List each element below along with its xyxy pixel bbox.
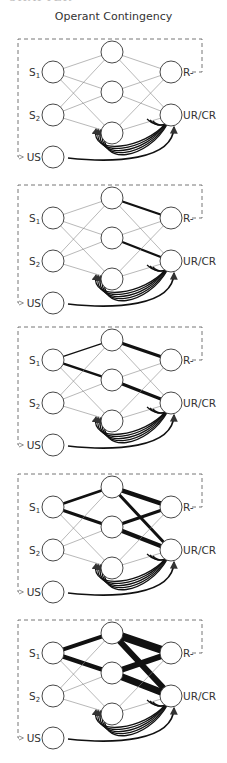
label-s1: S1 <box>29 647 40 661</box>
node-us <box>42 292 64 314</box>
node-h3 <box>101 557 123 579</box>
node-ur <box>160 392 182 414</box>
node-ur <box>160 539 182 561</box>
label-s2: S2 <box>29 109 40 123</box>
connection-s1-h1 <box>63 56 101 69</box>
node-h2 <box>101 81 123 103</box>
node-s2 <box>42 539 64 561</box>
label-r-minus: R- <box>183 212 194 224</box>
panel-3: S1S2USR-UR/CR <box>18 327 216 456</box>
node-s2 <box>42 250 64 272</box>
connection-s1-h1 <box>63 202 101 215</box>
node-r <box>160 642 182 664</box>
node-us <box>42 581 64 603</box>
node-h1 <box>101 622 123 644</box>
connection-s1-h3 <box>61 226 105 271</box>
panel-5: S1S2USR-UR/CR <box>18 620 216 749</box>
panel-4: S1S2USR-UR/CR <box>18 474 216 603</box>
label-s1: S1 <box>29 501 40 515</box>
node-s2 <box>42 104 64 126</box>
node-s1 <box>42 61 64 83</box>
connection-h3-r <box>120 368 164 413</box>
node-h2 <box>101 227 123 249</box>
connection-s1-h2 <box>63 76 101 89</box>
connection-s1-h3 <box>61 80 105 125</box>
node-s1 <box>42 642 64 664</box>
node-s2 <box>42 685 64 707</box>
panel-1-initial: S1S2USR-UR/CR <box>18 39 216 168</box>
connection-h2-r <box>122 364 160 377</box>
node-ur <box>160 104 182 126</box>
node-r <box>160 349 182 371</box>
connection-s1-h1 <box>63 344 101 357</box>
connection-s1-h2 <box>63 657 101 670</box>
node-s1 <box>42 207 64 229</box>
connection-s2-h3 <box>64 699 102 711</box>
connection-s2-h3 <box>64 264 102 276</box>
label-r-minus: R- <box>183 647 194 659</box>
node-ur <box>160 685 182 707</box>
label-r-minus: R- <box>183 501 194 513</box>
node-h3 <box>101 122 123 144</box>
connection-s2-h3 <box>64 118 102 130</box>
node-r <box>160 207 182 229</box>
node-r <box>160 61 182 83</box>
node-s1 <box>42 496 64 518</box>
node-s2 <box>42 392 64 414</box>
label-s2: S2 <box>29 690 40 704</box>
connection-h2-r <box>122 222 160 235</box>
node-h2 <box>101 369 123 391</box>
connection-h1-r <box>122 344 160 357</box>
node-h3 <box>101 268 123 290</box>
label-s2: S2 <box>29 544 40 558</box>
connection-h2-r <box>122 511 160 524</box>
label-us: US <box>27 586 42 598</box>
label-us: US <box>27 732 42 744</box>
node-h3 <box>101 703 123 725</box>
neural-network-diagram: S1S2USR-UR/CRS1S2USR-UR/CRS1S2USR-UR/CRS… <box>0 0 227 763</box>
connection-s1-h2 <box>63 511 101 524</box>
node-h3 <box>101 410 123 432</box>
connection-h3-r <box>120 226 164 271</box>
node-s1 <box>42 349 64 371</box>
panel-2: S1S2USR-UR/CR <box>18 185 216 314</box>
label-s1: S1 <box>29 354 40 368</box>
connection-s2-h3 <box>64 553 102 565</box>
connection-h1-r <box>122 491 160 504</box>
label-r-minus: R- <box>183 66 194 78</box>
node-us <box>42 146 64 168</box>
label-us: US <box>27 439 42 451</box>
label-us: US <box>27 297 42 309</box>
connection-s1-h2 <box>63 222 101 235</box>
label-ur-cr: UR/CR <box>183 255 216 267</box>
label-ur-cr: UR/CR <box>183 397 216 409</box>
node-h1 <box>101 329 123 351</box>
connection-s1-h2 <box>63 364 101 377</box>
label-ur-cr: UR/CR <box>183 544 216 556</box>
node-us <box>42 434 64 456</box>
connection-s1-h1 <box>63 637 101 650</box>
node-h1 <box>101 476 123 498</box>
connection-h1-r <box>122 56 160 69</box>
connection-h3-r <box>120 80 164 125</box>
label-s1: S1 <box>29 66 40 80</box>
node-ur <box>160 250 182 272</box>
label-ur-cr: UR/CR <box>183 109 216 121</box>
label-ur-cr: UR/CR <box>183 690 216 702</box>
label-s1: S1 <box>29 212 40 226</box>
connection-h2-r <box>122 76 160 89</box>
node-r <box>160 496 182 518</box>
label-r-minus: R- <box>183 354 194 366</box>
node-h1 <box>101 41 123 63</box>
connection-h1-r <box>122 202 160 215</box>
connection-s1-h1 <box>63 491 101 504</box>
label-s2: S2 <box>29 255 40 269</box>
connection-s2-h3 <box>64 406 102 418</box>
node-h1 <box>101 187 123 209</box>
node-h2 <box>101 516 123 538</box>
label-s2: S2 <box>29 397 40 411</box>
node-us <box>42 727 64 749</box>
label-us: US <box>27 151 42 163</box>
node-h2 <box>101 662 123 684</box>
